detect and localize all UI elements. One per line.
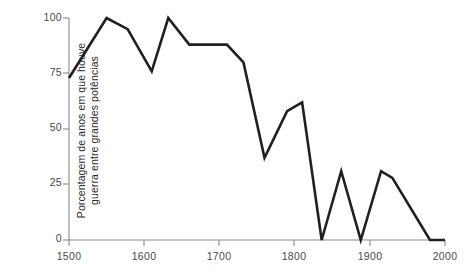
x-tick-marks xyxy=(69,240,445,246)
plot-area xyxy=(0,0,471,274)
data-series-line xyxy=(69,18,445,240)
chart-container: guerra entre grandes potências Porcentag… xyxy=(0,0,471,274)
y-tick-marks xyxy=(63,18,69,240)
